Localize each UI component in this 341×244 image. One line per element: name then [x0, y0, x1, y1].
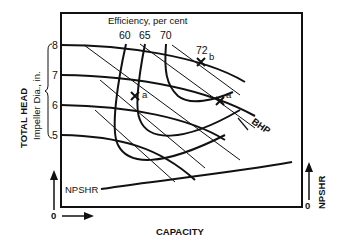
- left-axis-arrowhead: [50, 170, 58, 180]
- impeller-tick-8: 8: [52, 39, 58, 51]
- origin-left: 0: [51, 210, 56, 221]
- point-a-right-label: a: [226, 89, 232, 100]
- capacity-arrowhead: [84, 212, 94, 220]
- right-axis-label: NPSHR: [316, 176, 327, 209]
- point-a-left-label: a: [142, 89, 148, 100]
- y-axis-sublabel: Impeller Dia., in.: [31, 71, 42, 140]
- efficiency-label-70: 70: [160, 29, 172, 41]
- efficiency-title: Efficiency, per cent: [108, 15, 188, 26]
- bhp-line-1: [84, 45, 240, 160]
- y-axis-label: TOTAL HEAD: [18, 88, 29, 148]
- right-axis-arrowhead: [305, 162, 313, 172]
- impeller-brace: [45, 44, 52, 138]
- x-axis-label: CAPACITY: [156, 226, 205, 237]
- efficiency-label-72: 72: [196, 44, 208, 56]
- impeller-tick-6: 6: [52, 99, 58, 111]
- head-curve-6: [61, 105, 225, 140]
- point-a-left: a: [131, 89, 148, 100]
- bhp-label: BHP: [250, 116, 273, 137]
- npshr-curve-label: NPSHR: [65, 184, 98, 195]
- head-curve-5: [61, 135, 195, 180]
- origin-right: 0: [305, 200, 310, 211]
- pump-performance-diagram: Efficiency, per cent 60 65 70 72 8 7 6 5…: [0, 0, 341, 244]
- bhp-line-5: [95, 110, 175, 182]
- efficiency-label-60: 60: [119, 29, 131, 41]
- efficiency-label-65: 65: [139, 29, 151, 41]
- impeller-tick-7: 7: [52, 69, 58, 81]
- point-b-label: b: [209, 51, 214, 62]
- npshr-curve: [101, 162, 292, 189]
- impeller-tick-5: 5: [52, 129, 58, 141]
